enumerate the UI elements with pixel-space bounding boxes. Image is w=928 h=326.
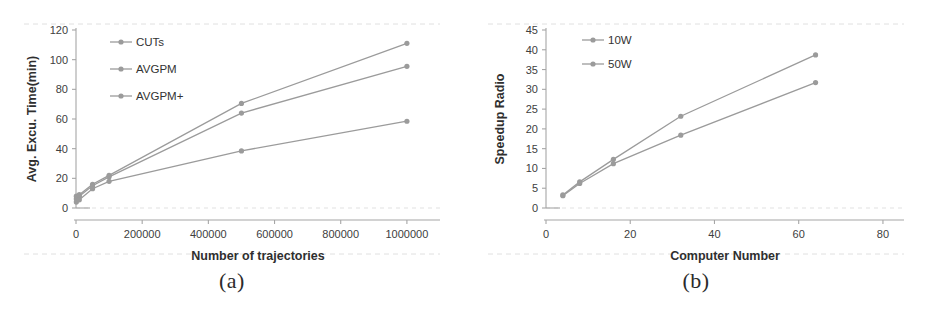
chart-b-svg: 051015202530354045020406080Computer Numb… [486, 22, 906, 262]
figure-container: 0204060801001200200000400000600000800000… [0, 0, 928, 326]
data-point [239, 148, 244, 153]
data-point [239, 101, 244, 106]
y-axis-title: Avg. Excu. Time(min) [25, 56, 39, 182]
chart-panel-b: 051015202530354045020406080Computer Numb… [464, 0, 928, 326]
x-axis-tick-label: 60 [793, 228, 805, 240]
data-point [404, 41, 409, 46]
data-point [813, 80, 818, 85]
series-path [563, 55, 816, 195]
y-axis-tick-label: 30 [526, 83, 538, 95]
x-axis-tick-label: 20 [624, 228, 636, 240]
series-10w [560, 80, 818, 198]
series-path [76, 66, 407, 199]
y-axis-tick-label: 35 [526, 64, 538, 76]
series-path [563, 83, 816, 196]
x-axis-tick-label: 200000 [124, 228, 161, 240]
data-point [678, 133, 683, 138]
chart-a-plot-area: 0204060801001200200000400000600000800000… [22, 22, 442, 262]
x-axis-title: Number of trajectories [191, 249, 324, 263]
caption-b: (b) [464, 268, 928, 294]
data-point [77, 197, 82, 202]
legend: CUTsAVGPMAVGPM+ [110, 36, 184, 102]
data-point [239, 110, 244, 115]
y-axis-tick-label: 80 [56, 83, 68, 95]
data-point [404, 119, 409, 124]
data-point [611, 157, 616, 162]
x-axis-tick-label: 600000 [256, 228, 293, 240]
data-point [106, 174, 111, 179]
legend-swatch-marker [118, 93, 123, 98]
legend-label: 50W [608, 58, 632, 70]
y-axis-tick-label: 15 [526, 143, 538, 155]
series-avgpm- [74, 119, 410, 205]
data-point [560, 192, 565, 197]
y-axis-tick-label: 20 [56, 172, 68, 184]
y-axis-tick-label: 5 [532, 182, 538, 194]
series-path [76, 121, 407, 202]
chart-b-plot-area: 051015202530354045020406080Computer Numb… [486, 22, 906, 262]
y-axis-tick-label: 45 [526, 24, 538, 36]
x-axis-tick-label: 800000 [322, 228, 359, 240]
x-axis-tick-label: 1000000 [385, 228, 428, 240]
data-point [404, 64, 409, 69]
x-axis-title: Computer Number [670, 249, 780, 263]
series-50w [560, 52, 818, 197]
y-axis-tick-label: 60 [56, 113, 68, 125]
x-axis-tick-label: 40 [708, 228, 720, 240]
legend-swatch-marker [118, 39, 123, 44]
legend-label: 10W [608, 34, 632, 46]
y-axis-tick-label: 10 [526, 162, 538, 174]
chart-panel-a: 0204060801001200200000400000600000800000… [0, 0, 464, 326]
legend-label: CUTs [136, 36, 164, 48]
caption-a: (a) [0, 268, 464, 294]
legend-label: AVGPM [136, 63, 177, 75]
chart-a-svg: 0204060801001200200000400000600000800000… [22, 22, 442, 262]
x-axis-tick-label: 80 [877, 228, 889, 240]
series-path [76, 43, 407, 196]
x-axis-tick-label: 400000 [190, 228, 227, 240]
y-axis-tick-label: 100 [50, 54, 68, 66]
y-axis-title: Speedup Radio [493, 73, 507, 164]
legend-swatch-marker [590, 61, 595, 66]
data-point [813, 52, 818, 57]
y-axis-tick-label: 40 [56, 143, 68, 155]
y-axis-tick-label: 0 [62, 202, 68, 214]
legend-swatch-marker [590, 37, 595, 42]
legend: 10W50W [582, 34, 632, 70]
series-avgpm [74, 64, 410, 202]
data-point [90, 186, 95, 191]
y-axis-tick-label: 25 [526, 103, 538, 115]
data-point [106, 179, 111, 184]
y-axis-tick-label: 20 [526, 123, 538, 135]
data-point [678, 114, 683, 119]
data-point [577, 179, 582, 184]
y-axis-tick-label: 40 [526, 44, 538, 56]
legend-label: AVGPM+ [136, 90, 184, 102]
y-axis-tick-label: 120 [50, 24, 68, 36]
y-axis-tick-label: 0 [532, 202, 538, 214]
series-cuts [74, 41, 410, 199]
x-axis-tick-label: 0 [73, 228, 79, 240]
x-axis-tick-label: 0 [543, 228, 549, 240]
legend-swatch-marker [118, 66, 123, 71]
